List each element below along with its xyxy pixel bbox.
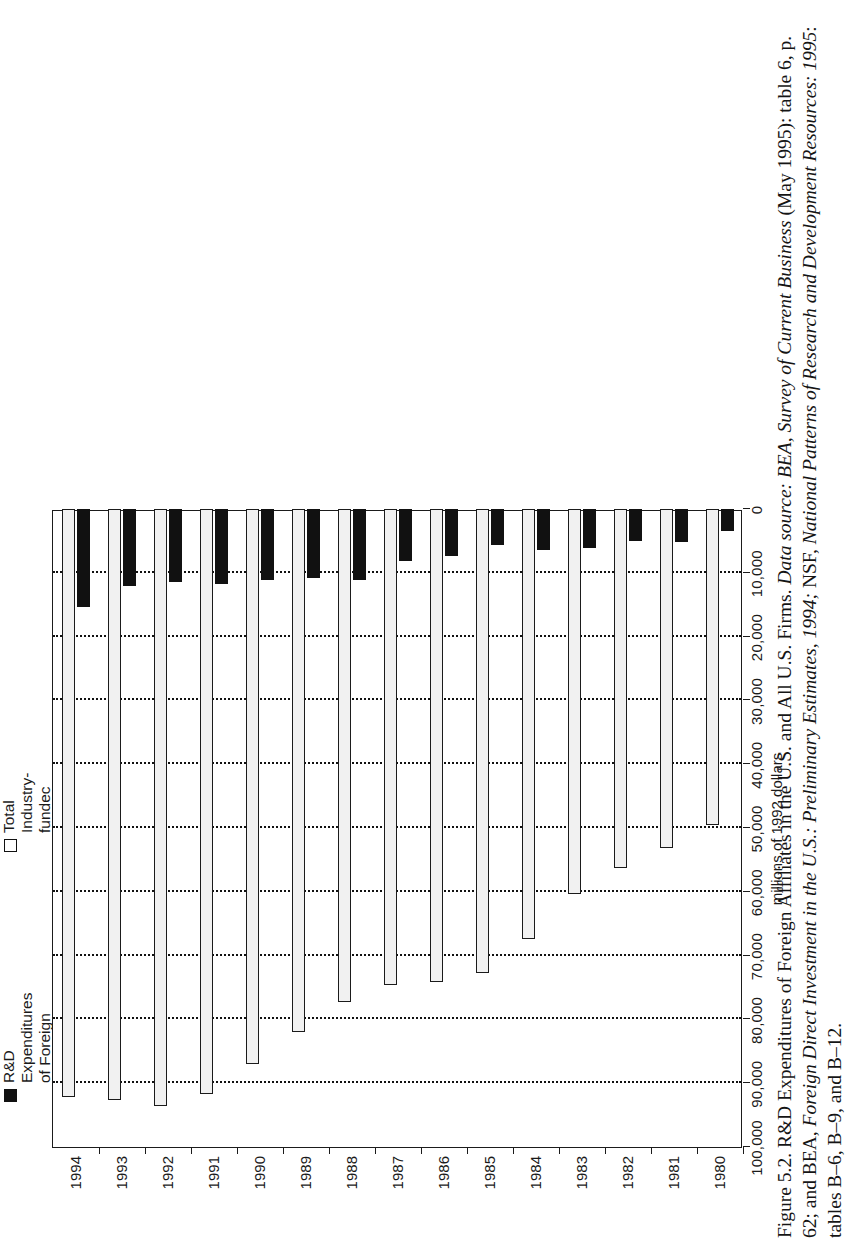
category-axis-tick [743, 1147, 744, 1154]
value-axis-labels: 100,00090,00080,00070,00060,00050,00040,… [742, 510, 768, 1148]
bar-foreign-affiliates-1991 [215, 509, 229, 584]
bar-foreign-affiliates-1981 [675, 509, 689, 542]
bar-total-industry-1987 [384, 509, 398, 985]
value-axis-tick-label: 90,000 [748, 1061, 765, 1108]
bar-foreign-affiliates-1994 [77, 509, 91, 607]
category-axis-tick-label-1984: 1984 [527, 1156, 544, 1189]
bar-total-industry-1982 [614, 509, 628, 868]
category-axis-tick-label-1994: 1994 [67, 1156, 84, 1189]
bar-total-industry-1981 [660, 509, 674, 848]
value-axis-tick-label: 80,000 [748, 997, 765, 1044]
bar-foreign-affiliates-1992 [169, 509, 183, 582]
category-axis-labels: 1980198119821983198419851986198719881989… [52, 1152, 742, 1214]
bar-total-industry-1994 [62, 509, 76, 1097]
bar-total-industry-1992 [154, 509, 168, 1106]
value-axis-tick-label: 70,000 [748, 933, 765, 980]
bar-foreign-affiliates-1987 [399, 509, 413, 561]
category-axis-tick-label-1983: 1983 [573, 1156, 590, 1189]
bar-total-industry-1986 [430, 509, 444, 982]
category-axis-tick-label-1993: 1993 [113, 1156, 130, 1189]
value-axis-tick-label: 20,000 [748, 614, 765, 661]
bar-foreign-affiliates-1982 [629, 509, 643, 541]
value-axis-tick-label: 0 [748, 506, 765, 515]
category-axis-tick-label-1991: 1991 [205, 1156, 222, 1189]
bar-foreign-affiliates-1985 [491, 509, 505, 545]
bar-foreign-affiliates-1984 [537, 509, 551, 550]
bar-total-industry-1980 [706, 509, 720, 825]
bar-foreign-affiliates-1993 [123, 509, 137, 586]
value-axis-tick-label: 60,000 [748, 869, 765, 916]
category-axis-tick-label-1988: 1988 [343, 1156, 360, 1189]
rotated-figure-stage: R&D Expenditures of Foreign Affiliates T… [0, 0, 852, 1252]
value-axis-tick-label: 30,000 [748, 678, 765, 725]
value-axis-tick-label: 40,000 [748, 742, 765, 789]
bar-foreign-affiliates-1983 [583, 509, 597, 548]
category-axis-tick-label-1986: 1986 [435, 1156, 452, 1189]
bar-total-industry-1989 [292, 509, 306, 1032]
value-axis-tick-label: 100,000 [748, 1120, 765, 1176]
bar-foreign-affiliates-1980 [721, 509, 735, 531]
bar-total-industry-1991 [200, 509, 214, 1094]
category-axis-tick-label-1989: 1989 [297, 1156, 314, 1189]
caption-text: Figure 5.2. R&D Expenditures of Foreign … [774, 26, 845, 1238]
bar-foreign-affiliates-1989 [307, 509, 321, 578]
bar-foreign-affiliates-1986 [445, 509, 459, 556]
bar-chart-plot-area [52, 510, 742, 1148]
bar-total-industry-1993 [108, 509, 122, 1100]
bar-foreign-affiliates-1990 [261, 509, 275, 580]
category-axis-tick-label-1987: 1987 [389, 1156, 406, 1189]
bar-total-industry-1985 [476, 509, 490, 973]
bar-total-industry-1990 [246, 509, 260, 1064]
value-axis-tick-label: 50,000 [748, 805, 765, 852]
bar-foreign-affiliates-1988 [353, 509, 367, 580]
bar-total-industry-1984 [522, 509, 536, 939]
bar-total-industry-1988 [338, 509, 352, 1002]
category-axis-tick-label-1990: 1990 [251, 1156, 268, 1189]
category-axis-tick-label-1992: 1992 [159, 1156, 176, 1189]
value-axis-tick-label: 10,000 [748, 550, 765, 597]
figure-caption: Figure 5.2. R&D Expenditures of Foreign … [772, 10, 847, 1238]
category-axis-tick-label-1985: 1985 [481, 1156, 498, 1189]
filled-square-icon [4, 1089, 17, 1102]
category-axis-tick-label-1981: 1981 [665, 1156, 682, 1189]
category-axis-tick-label-1982: 1982 [619, 1156, 636, 1189]
category-axis-tick-label-1980: 1980 [711, 1156, 728, 1189]
hollow-square-icon [4, 839, 17, 852]
bar-total-industry-1983 [568, 509, 582, 894]
